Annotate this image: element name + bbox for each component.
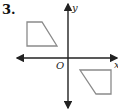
coordinate-plane: [0, 0, 118, 111]
coordinate-figure: 3. y O x: [0, 0, 118, 111]
quadrilateral-upper-left: [27, 22, 57, 46]
origin-label: O: [56, 61, 64, 71]
problem-number: 3.: [2, 3, 16, 16]
x-axis-label: x: [114, 60, 118, 70]
quadrilateral-lower-right: [80, 70, 111, 94]
y-axis-label: y: [72, 3, 78, 13]
